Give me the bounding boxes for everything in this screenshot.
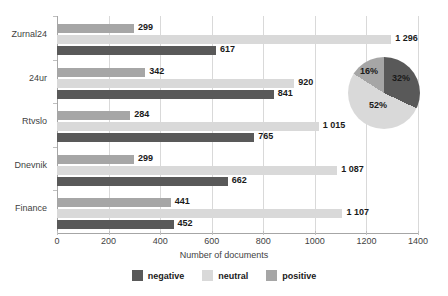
y-axis-labels: Zurnal24 24ur Rtvslo Dnevnik Finance [0,16,52,234]
legend-swatch-positive [266,270,277,281]
bar-value-label-dnevnik-neutral: 1 087 [341,164,364,174]
bar-value-label-finance-negative: 452 [178,218,193,228]
x-tick-label-200: 200 [101,236,116,246]
sentiment-bar-chart: Zurnal24 24ur Rtvslo Dnevnik Finance 299… [0,0,448,296]
bar-value-label-dnevnik-positive: 299 [138,153,153,163]
bar-finance-neutral[interactable] [57,209,342,218]
bar-rtvslo-negative[interactable] [57,133,254,142]
pie-slice-label-positive: 16% [360,66,378,76]
pie-slice-label-neutral: 52% [369,100,387,110]
bar-row: 1 296 [57,35,418,44]
bar-value-label-zurnal24-neutral: 1 296 [395,33,418,43]
legend-item-positive[interactable]: positive [266,270,316,281]
y-axis-label-1: 24ur [29,73,47,83]
bar-group-zurnal24: 2991 296617 [57,24,418,57]
legend-label-positive: positive [282,271,316,281]
x-tick-1400 [418,231,419,235]
bar-value-label-rtvslo-negative: 765 [258,131,273,141]
bar-group-dnevnik: 2991 087662 [57,155,418,188]
bar-row: 452 [57,220,418,229]
legend-label-negative: negative [148,271,185,281]
bar-zurnal24-positive[interactable] [57,24,134,33]
bar-row: 299 [57,155,418,164]
pie-circle [348,57,420,129]
bar-24ur-neutral[interactable] [57,79,294,88]
bar-zurnal24-negative[interactable] [57,46,216,55]
y-tick-dnevnik [53,147,57,148]
y-axis-label-4: Finance [15,203,47,213]
x-tick-200 [109,231,110,235]
y-axis-label-0: Zurnal24 [11,29,47,39]
x-tick-label-400: 400 [153,236,168,246]
bar-dnevnik-neutral[interactable] [57,166,337,175]
bar-dnevnik-positive[interactable] [57,155,134,164]
legend-item-neutral[interactable]: neutral [202,270,248,281]
bar-row: 765 [57,133,418,142]
inset-pie-chart: 32% 52% 16% [348,57,420,129]
x-tick-600 [212,231,213,235]
y-tick-rtvslo [53,103,57,104]
bar-value-label-24ur-positive: 342 [149,66,164,76]
bar-value-label-rtvslo-neutral: 1 015 [323,120,346,130]
x-tick-label-0: 0 [54,236,59,246]
bar-row: 299 [57,24,418,33]
x-tick-1200 [366,231,367,235]
bar-24ur-positive[interactable] [57,68,145,77]
x-tick-label-1400: 1400 [408,236,428,246]
bar-row: 1 087 [57,166,418,175]
x-tick-label-600: 600 [204,236,219,246]
y-tick-24ur [53,60,57,61]
x-tick-1000 [315,231,316,235]
bar-row: 1 107 [57,209,418,218]
bar-value-label-zurnal24-negative: 617 [220,44,235,54]
x-tick-label-1200: 1200 [356,236,376,246]
legend-swatch-neutral [202,270,213,281]
bar-value-label-24ur-neutral: 920 [298,77,313,87]
x-axis-title: Number of documents [0,250,448,260]
bar-zurnal24-neutral[interactable] [57,35,391,44]
bar-value-label-rtvslo-positive: 284 [134,109,149,119]
bar-value-label-dnevnik-negative: 662 [232,175,247,185]
bar-finance-negative[interactable] [57,220,174,229]
y-axis-label-2: Rtvslo [22,116,47,126]
bar-group-finance: 4411 107452 [57,198,418,231]
bar-value-label-finance-neutral: 1 107 [346,207,369,217]
chart-legend: negative neutral positive [0,270,448,281]
bar-row: 617 [57,46,418,55]
bar-row: 441 [57,198,418,207]
bar-rtvslo-neutral[interactable] [57,122,319,131]
bar-24ur-negative[interactable] [57,90,274,99]
legend-label-neutral: neutral [218,271,248,281]
x-tick-label-1000: 1000 [305,236,325,246]
bar-value-label-finance-positive: 441 [175,196,190,206]
bar-value-label-24ur-negative: 841 [278,88,293,98]
bar-rtvslo-positive[interactable] [57,111,130,120]
bar-value-label-zurnal24-positive: 299 [138,22,153,32]
x-tick-800 [263,231,264,235]
bar-finance-positive[interactable] [57,198,171,207]
legend-swatch-negative [132,270,143,281]
legend-item-negative[interactable]: negative [132,270,185,281]
bar-row: 662 [57,177,418,186]
y-axis-label-3: Dnevnik [14,160,47,170]
x-tick-0 [57,231,58,235]
x-axis-labels: 0200400600800100012001400 [57,236,418,250]
pie-slice-label-negative: 32% [392,73,410,83]
x-axis-line [57,233,418,234]
bar-dnevnik-negative[interactable] [57,177,228,186]
y-tick-zurnal24 [53,16,57,17]
x-tick-label-800: 800 [256,236,271,246]
y-tick-finance [53,190,57,191]
x-tick-400 [160,231,161,235]
